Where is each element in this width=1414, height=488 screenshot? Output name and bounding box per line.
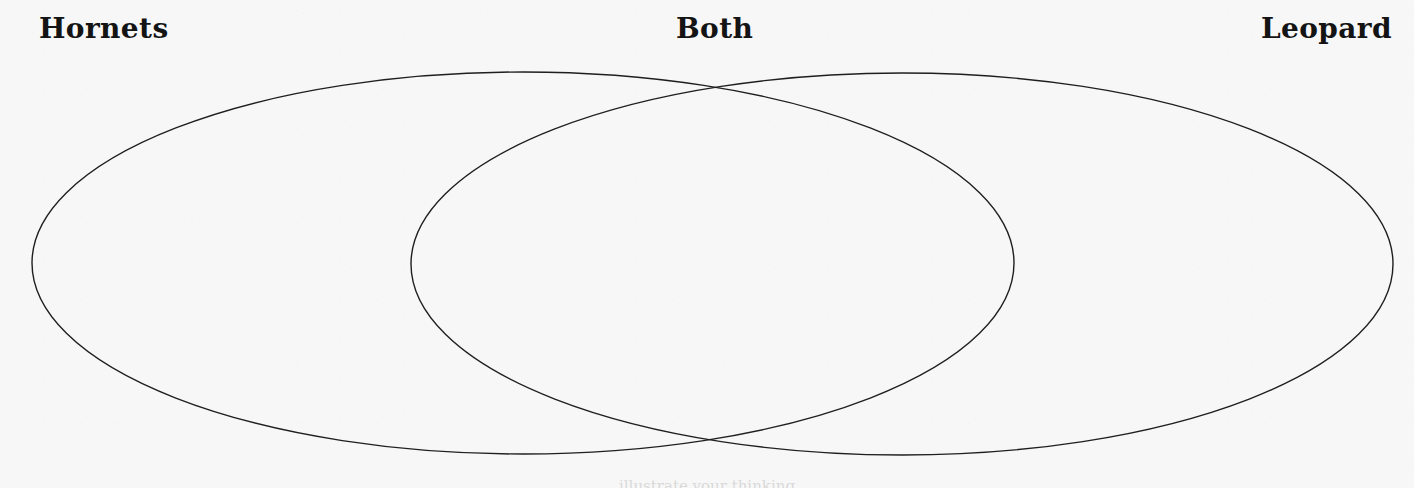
venn-diagram-area — [0, 0, 1414, 488]
footer-cutoff-text: illustrate your thinking — [0, 478, 1414, 488]
venn-diagram-worksheet: Hornets Both Leopard illustrate your thi… — [0, 0, 1414, 488]
footer-cutoff-region: illustrate your thinking — [0, 478, 1414, 488]
venn-circle-left — [32, 72, 1014, 454]
venn-diagram-svg — [0, 0, 1414, 488]
venn-circle-right — [411, 73, 1393, 455]
